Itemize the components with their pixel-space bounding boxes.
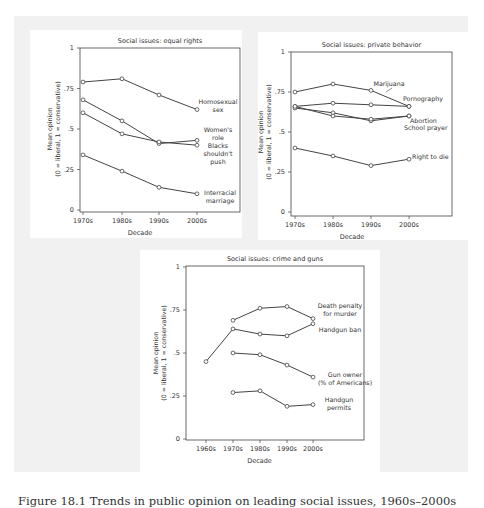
chart-title: Social issues: private behavior bbox=[322, 41, 422, 49]
data-point-marker bbox=[311, 317, 315, 321]
series-label: Blacks bbox=[208, 142, 228, 149]
x-tick-label: 1970s bbox=[73, 217, 94, 225]
data-point-marker bbox=[285, 334, 289, 338]
series-label: shouldn't bbox=[203, 150, 233, 157]
chart-panel-3: Social issues: crime and guns0.25.5.751M… bbox=[140, 250, 380, 472]
y-tick-label: 0 bbox=[281, 208, 285, 216]
data-point-marker bbox=[81, 111, 85, 115]
x-axis-title: Decade bbox=[247, 457, 272, 465]
series-label: marriage bbox=[206, 197, 235, 205]
y-axis-title: Mean opinion bbox=[152, 332, 160, 374]
x-tick-label: 2000s bbox=[187, 217, 208, 225]
series-label: Abortion bbox=[410, 117, 437, 124]
plot-background bbox=[30, 30, 242, 238]
data-point-marker bbox=[331, 154, 335, 158]
data-point-marker bbox=[311, 322, 315, 326]
y-axis-title: Mean opinion bbox=[257, 111, 265, 153]
chart-title: Social issues: crime and guns bbox=[227, 255, 324, 263]
x-tick-label: 1970s bbox=[285, 221, 306, 229]
y-axis-title: (0 = liberal, 1 = conservative) bbox=[54, 81, 61, 177]
y-tick-label: 0 bbox=[176, 435, 180, 443]
data-point-marker bbox=[231, 391, 235, 395]
data-point-marker bbox=[81, 80, 85, 84]
y-tick-label: .25 bbox=[64, 166, 74, 174]
x-axis-title: Decade bbox=[340, 233, 365, 241]
data-point-marker bbox=[120, 132, 124, 136]
data-point-marker bbox=[369, 164, 373, 168]
y-axis-title: (0 = liberal, 1 = conservative) bbox=[265, 84, 272, 180]
data-point-marker bbox=[195, 143, 199, 147]
x-tick-label: 1990s bbox=[277, 445, 298, 453]
data-point-marker bbox=[331, 82, 335, 86]
y-tick-label: .25 bbox=[275, 168, 285, 176]
data-point-marker bbox=[120, 169, 124, 173]
data-point-marker bbox=[258, 389, 262, 393]
y-tick-label: .5 bbox=[279, 128, 285, 136]
data-point-marker bbox=[407, 157, 411, 161]
x-tick-label: 2000s bbox=[399, 221, 420, 229]
y-tick-label: .25 bbox=[170, 392, 180, 400]
data-point-marker bbox=[285, 404, 289, 408]
data-point-marker bbox=[331, 114, 335, 118]
data-point-marker bbox=[369, 89, 373, 93]
y-tick-label: .5 bbox=[174, 349, 180, 357]
series-label: Right to die bbox=[412, 153, 449, 161]
y-tick-label: 1 bbox=[70, 44, 74, 52]
series-label: Death penalty bbox=[318, 302, 363, 310]
figure-caption: Figure 18.1 Trends in public opinion on … bbox=[18, 494, 456, 508]
data-point-marker bbox=[258, 306, 262, 310]
data-point-marker bbox=[204, 360, 208, 364]
data-point-marker bbox=[369, 117, 373, 121]
data-point-marker bbox=[311, 403, 315, 407]
data-point-marker bbox=[157, 93, 161, 97]
data-point-marker bbox=[195, 192, 199, 196]
x-tick-label: 1980s bbox=[112, 217, 133, 225]
x-tick-label: 1990s bbox=[149, 217, 170, 225]
y-axis-title: (0 = liberal, 1 = conservative) bbox=[160, 305, 167, 401]
data-point-marker bbox=[369, 103, 373, 107]
chart-panel-1: Social issues: equal rights0.25.5.751Mea… bbox=[30, 30, 242, 238]
y-tick-label: 0 bbox=[70, 206, 74, 214]
data-point-marker bbox=[157, 140, 161, 144]
series-label: Women's bbox=[204, 126, 233, 133]
x-tick-label: 2000s bbox=[303, 445, 324, 453]
plot-background bbox=[258, 32, 472, 240]
series-label: Marijuana bbox=[373, 80, 404, 88]
series-label: Pornography bbox=[403, 95, 443, 103]
data-point-marker bbox=[331, 101, 335, 105]
data-point-marker bbox=[120, 77, 124, 81]
data-point-marker bbox=[231, 318, 235, 322]
data-point-marker bbox=[157, 185, 161, 189]
y-tick-label: .75 bbox=[275, 88, 285, 96]
x-tick-label: 1960s bbox=[196, 445, 217, 453]
data-point-marker bbox=[231, 351, 235, 355]
charts-canvas: Social issues: equal rights0.25.5.751Mea… bbox=[0, 0, 484, 508]
data-point-marker bbox=[293, 105, 297, 109]
data-point-marker bbox=[258, 332, 262, 336]
series-label: role bbox=[212, 134, 224, 141]
y-tick-label: .75 bbox=[64, 85, 74, 93]
y-tick-label: 1 bbox=[281, 48, 285, 56]
x-tick-label: 1980s bbox=[250, 445, 271, 453]
series-label: (% of Americans) bbox=[318, 379, 372, 386]
data-point-marker bbox=[311, 375, 315, 379]
y-tick-label: .75 bbox=[170, 306, 180, 314]
chart-title: Social issues: equal rights bbox=[118, 37, 203, 45]
y-tick-label: .5 bbox=[68, 125, 74, 133]
x-tick-label: 1970s bbox=[223, 445, 244, 453]
series-label: Interracial bbox=[204, 189, 236, 196]
chart-panel-2: Social issues: private behavior0.25.5.75… bbox=[257, 32, 472, 241]
series-label: Handgun bbox=[325, 396, 354, 404]
x-tick-label: 1980s bbox=[323, 221, 344, 229]
data-point-marker bbox=[81, 98, 85, 102]
series-label: Handgun ban bbox=[319, 326, 361, 334]
series-label: Homosexual bbox=[199, 98, 238, 105]
data-point-marker bbox=[285, 363, 289, 367]
data-point-marker bbox=[195, 138, 199, 142]
figure: Social issues: equal rights0.25.5.751Mea… bbox=[0, 0, 484, 508]
data-point-marker bbox=[407, 114, 411, 118]
data-point-marker bbox=[407, 105, 411, 109]
x-axis-title: Decade bbox=[128, 229, 153, 237]
series-label: School prayer bbox=[404, 124, 448, 132]
data-point-marker bbox=[120, 119, 124, 123]
